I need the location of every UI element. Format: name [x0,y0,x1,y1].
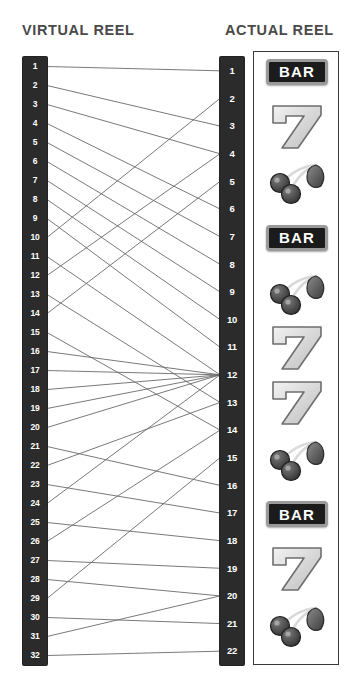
virtual-stop-27: 27 [23,551,47,570]
actual-stop-6: 6 [220,195,244,223]
wire-v14-a5 [47,181,220,313]
cherry-icon [266,269,328,317]
virtual-stop-25: 25 [23,513,47,532]
actual-stop-20: 20 [220,582,244,610]
virtual-stop-15: 15 [23,323,47,342]
wire-v13-a13 [47,295,220,403]
virtual-stop-19: 19 [23,399,47,418]
wire-v17-a12 [47,371,220,375]
actual-reel-strip: 12345678910111213141516171819202122 [220,57,244,665]
wire-v30-a21 [47,618,220,624]
actual-stop-17: 17 [220,499,244,527]
bar-label: BAR [279,229,315,246]
virtual-stop-5: 5 [23,133,47,152]
actual-stop-3: 3 [220,112,244,140]
wire-v4-a6 [47,124,220,210]
cherry-icon [266,435,328,483]
virtual-stop-32: 32 [23,646,47,665]
bar-badge: BAR [266,59,328,85]
virtual-reel-strip: 1234567891011121314151617181920212223242… [23,57,47,665]
virtual-stop-9: 9 [23,209,47,228]
seven-icon [268,544,326,594]
bar-badge: BAR [266,225,328,251]
virtual-stop-21: 21 [23,437,47,456]
symbol-bar-4: BAR [254,210,340,266]
actual-stop-10: 10 [220,306,244,334]
wire-v24-a12 [47,375,220,504]
wire-v31-a20 [47,596,220,637]
symbol-cherry-8 [254,431,340,487]
symbol-cherry-3 [254,154,340,210]
actual-stop-1: 1 [220,57,244,85]
actual-stop-13: 13 [220,389,244,417]
wire-v28-a20 [47,580,220,596]
actual-stop-2: 2 [220,85,244,113]
seven-icon [268,323,326,373]
wire-v11-a12 [47,257,220,375]
wire-v6-a8 [47,162,220,265]
actual-stop-8: 8 [220,250,244,278]
actual-stop-21: 21 [220,610,244,638]
reel-mapping-diagram: VIRTUAL REEL ACTUAL REEL 123456789101112… [0,0,349,698]
actual-stop-18: 18 [220,527,244,555]
virtual-stop-1: 1 [23,57,47,76]
virtual-stop-11: 11 [23,247,47,266]
wire-v10-a2 [47,98,220,237]
symbol-seven-7 [254,375,340,431]
seven-icon [268,378,326,428]
wire-v2-a3 [47,86,220,127]
symbol-panel: BARBARBAR [253,51,339,665]
actual-reel-heading: ACTUAL REEL [225,22,334,38]
actual-stop-9: 9 [220,278,244,306]
actual-stop-16: 16 [220,472,244,500]
wire-v7-a9 [47,181,220,292]
virtual-stop-10: 10 [23,228,47,247]
cherry-icon [266,158,328,206]
actual-stop-11: 11 [220,333,244,361]
wire-v16-a12 [47,352,220,375]
symbol-seven-6 [254,320,340,376]
virtual-stop-8: 8 [23,190,47,209]
symbol-seven-10 [254,541,340,597]
wire-v20-a12 [47,375,220,428]
seven-icon [268,102,326,152]
wire-v32-a22 [47,651,220,655]
bar-badge: BAR [266,501,328,527]
virtual-stop-7: 7 [23,171,47,190]
virtual-stop-30: 30 [23,608,47,627]
virtual-stop-18: 18 [23,380,47,399]
wire-v22-a13 [47,402,220,465]
virtual-stop-23: 23 [23,475,47,494]
symbol-bar-1: BAR [254,44,340,100]
wire-v19-a12 [47,375,220,409]
virtual-stop-6: 6 [23,152,47,171]
wire-v3-a4 [47,105,220,154]
wire-v15-a14 [47,333,220,431]
symbol-bar-9: BAR [254,486,340,542]
actual-stop-14: 14 [220,416,244,444]
virtual-stop-26: 26 [23,532,47,551]
virtual-stop-29: 29 [23,589,47,608]
wire-v12-a4 [47,154,220,276]
virtual-stop-22: 22 [23,456,47,475]
virtual-stop-3: 3 [23,95,47,114]
wire-v29-a15 [47,458,220,599]
virtual-stop-12: 12 [23,266,47,285]
virtual-stop-20: 20 [23,418,47,437]
wire-v18-a12 [47,375,220,390]
wire-v1-a1 [47,67,220,71]
virtual-stop-28: 28 [23,570,47,589]
wire-v26-a14 [47,430,220,541]
symbol-seven-2 [254,99,340,155]
bar-label: BAR [279,506,315,523]
wire-v5-a7 [47,143,220,237]
bar-label: BAR [279,63,315,80]
actual-stop-22: 22 [220,637,244,665]
symbol-cherry-11 [254,597,340,653]
cherry-icon [266,601,328,649]
wire-v8-a10 [47,200,220,320]
wire-v27-a19 [47,561,220,569]
wire-v23-a17 [47,485,220,514]
actual-stop-7: 7 [220,223,244,251]
actual-stop-4: 4 [220,140,244,168]
